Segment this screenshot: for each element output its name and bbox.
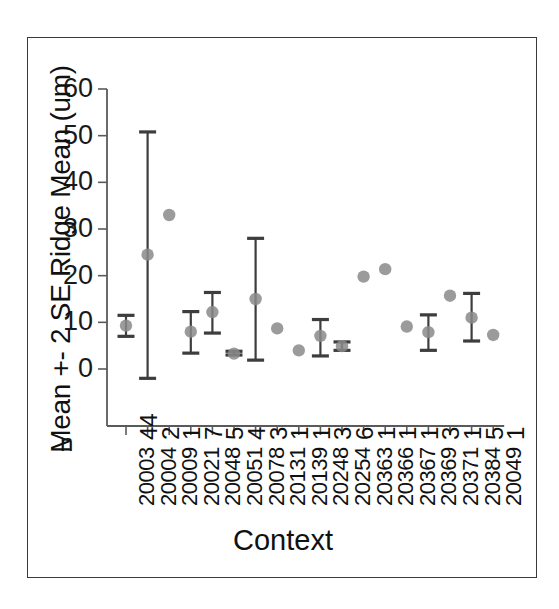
data-point	[271, 322, 283, 334]
y-axis-title: Mean +- 2 SE Ridge Mean (um)	[45, 24, 77, 494]
data-point	[444, 290, 456, 302]
data-point	[336, 340, 348, 352]
data-point	[422, 326, 434, 338]
data-point	[379, 263, 391, 275]
data-point	[206, 306, 218, 318]
data-point	[120, 319, 132, 331]
x-axis-category-label: 20049	[501, 447, 527, 506]
data-point	[465, 311, 477, 323]
data-point	[141, 248, 153, 260]
data-point	[228, 347, 240, 359]
x-axis-title: Context	[28, 524, 538, 557]
n-value: 1	[502, 427, 530, 440]
data-point	[163, 209, 175, 221]
data-point	[357, 270, 369, 282]
data-point	[185, 325, 197, 337]
data-point	[487, 329, 499, 341]
data-point	[401, 320, 413, 332]
plot-area: 0102030405060 Mean +- 2 SE Ridge Mean (u…	[28, 38, 538, 579]
data-point	[314, 330, 326, 342]
n-axis-label: n	[60, 429, 73, 457]
data-point	[293, 344, 305, 356]
y-axis-tick-label: 0	[78, 353, 93, 383]
figure-frame: 0102030405060 Mean +- 2 SE Ridge Mean (u…	[27, 37, 537, 578]
data-point	[249, 293, 261, 305]
